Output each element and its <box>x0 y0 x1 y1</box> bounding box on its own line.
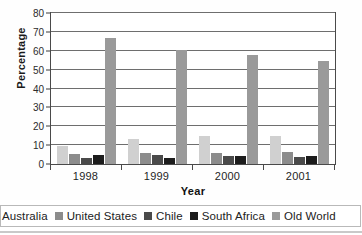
legend-label: Chile <box>156 210 183 222</box>
legend-item[interactable]: United States <box>55 210 137 222</box>
y-axis-tick-labels: 01020304050607080 <box>22 0 44 165</box>
legend-bottom-rule <box>0 231 362 233</box>
x-axis-tick-label: 1998 <box>73 170 98 182</box>
legend-swatch-icon <box>55 212 63 220</box>
y-axis-tick-label: 20 <box>33 121 44 132</box>
legend-item[interactable]: Old World <box>272 210 336 222</box>
legend-swatch-icon <box>190 212 198 220</box>
bar <box>270 136 281 164</box>
y-axis-tick-label: 0 <box>39 159 44 170</box>
bar <box>235 156 246 164</box>
legend-label: Old World <box>284 210 336 222</box>
bar <box>176 50 187 164</box>
bar <box>247 55 258 164</box>
legend-label: Australia <box>2 210 48 222</box>
y-axis-tick-label: 30 <box>33 102 44 113</box>
plot-inner <box>51 12 335 164</box>
legend-label: United States <box>67 210 137 222</box>
bar <box>93 155 104 164</box>
chart-legend: AustraliaUnited StatesChileSouth AfricaO… <box>0 205 361 227</box>
bar-group <box>122 12 193 164</box>
bar <box>318 61 329 164</box>
bar <box>294 157 305 164</box>
bar-chart: Percentage 01020304050607080 19981999200… <box>0 0 362 200</box>
y-axis-tick-label: 50 <box>33 64 44 75</box>
legend-item[interactable]: South Africa <box>190 210 265 222</box>
bar <box>306 156 317 164</box>
bars-layer <box>51 12 335 164</box>
legend-item[interactable]: Australia <box>0 210 48 222</box>
bar-group <box>264 12 335 164</box>
bar <box>69 154 80 164</box>
x-axis-title: Year <box>50 185 336 197</box>
bar <box>199 136 210 164</box>
x-axis-tick-label: 2001 <box>286 170 311 182</box>
y-axis-tick-label: 60 <box>33 45 44 56</box>
bar <box>128 139 139 164</box>
x-axis-tick-label: 2000 <box>215 170 240 182</box>
bar <box>105 38 116 164</box>
legend-swatch-icon <box>144 212 152 220</box>
x-axis-tick-label: 1999 <box>144 170 169 182</box>
bar <box>211 153 222 164</box>
bar <box>140 153 151 164</box>
plot-area <box>50 12 336 165</box>
x-axis-tick-labels: 1998199920002001 <box>50 170 336 186</box>
y-axis-tick-label: 80 <box>33 8 44 19</box>
bar <box>223 156 234 164</box>
bar-group <box>193 12 264 164</box>
bar <box>81 158 92 164</box>
y-axis-tick-label: 70 <box>33 26 44 37</box>
bar <box>282 152 293 164</box>
bar <box>164 158 175 164</box>
legend-item[interactable]: Chile <box>144 210 183 222</box>
bar-group <box>51 12 122 164</box>
bar <box>57 146 68 164</box>
legend-swatch-icon <box>272 212 280 220</box>
y-axis-tick-label: 10 <box>33 140 44 151</box>
y-axis-tick-label: 40 <box>33 83 44 94</box>
bar <box>152 155 163 164</box>
legend-label: South Africa <box>202 210 265 222</box>
